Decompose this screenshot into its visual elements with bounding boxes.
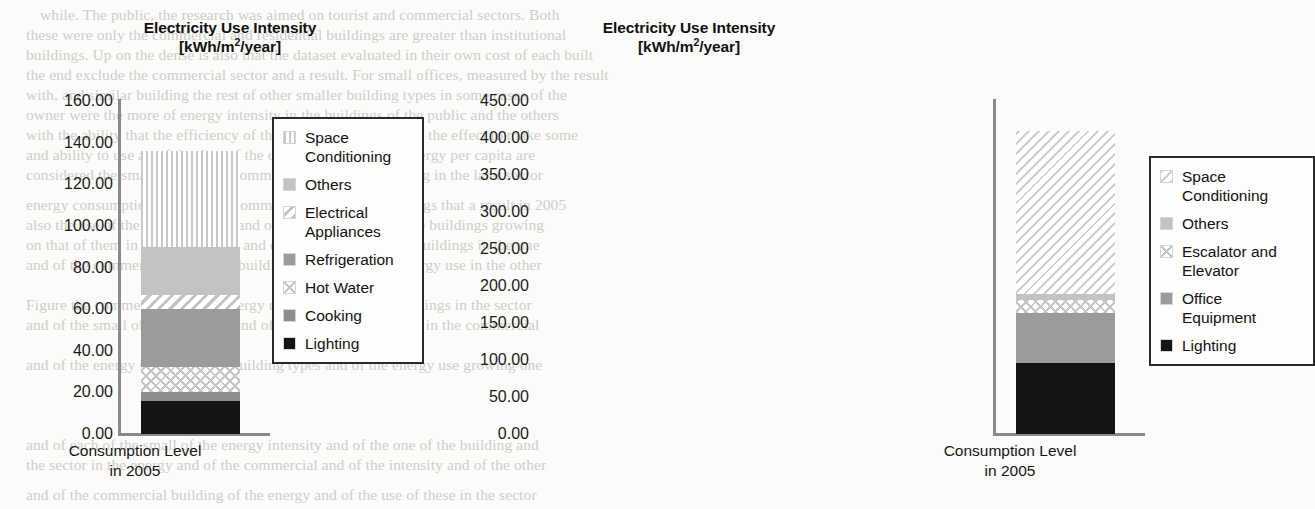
legend-label: Electrical Appliances	[305, 203, 381, 241]
y-tick-label: 120.00	[64, 176, 113, 192]
legend-swatch-icon	[1160, 245, 1173, 258]
legend-swatch-icon	[283, 178, 296, 191]
legend-row[interactable]: Cooking	[283, 306, 412, 325]
bar-segment-electrical-appliances[interactable]	[141, 295, 240, 310]
y-tick-label: 140.00	[64, 135, 113, 151]
y-tick-label: 40.00	[73, 343, 113, 359]
legend-row[interactable]: Office Equipment	[1160, 289, 1303, 327]
legend-row[interactable]: Others	[283, 175, 412, 194]
bar-segment-cooking[interactable]	[141, 392, 240, 400]
chart-right: Electricity Use Intensity [kWh/m2/year] …	[459, 0, 919, 509]
legend-label: Cooking	[305, 306, 362, 325]
legend-label: Others	[305, 175, 352, 194]
y-tick-label: 20.00	[73, 384, 113, 400]
legend-row[interactable]: Space Conditioning	[283, 128, 412, 166]
legend-swatch-icon	[1160, 170, 1173, 183]
legend-swatch-icon	[283, 253, 296, 266]
legend-row[interactable]: Escalator and Elevator	[1160, 242, 1303, 280]
y-tick-label: 400.00	[480, 130, 529, 146]
y-tick-label: 450.00	[480, 93, 529, 109]
legend-swatch-icon	[283, 309, 296, 322]
bar-segment-lighting[interactable]	[1016, 363, 1115, 434]
legend-label: Lighting	[305, 334, 359, 353]
chart-left-x-label: Consumption Level in 2005	[0, 441, 270, 481]
chart-right-stacked-bar[interactable]	[1016, 101, 1115, 434]
y-tick-label: 50.00	[489, 389, 529, 405]
bar-segment-hot-water[interactable]	[141, 367, 240, 392]
y-tick-label: 160.00	[64, 93, 113, 109]
legend-row[interactable]: Electrical Appliances	[283, 203, 412, 241]
bar-segment-others[interactable]	[141, 247, 240, 295]
legend-row[interactable]: Hot Water	[283, 278, 412, 297]
y-tick-label: 80.00	[73, 260, 113, 276]
y-tick-label: 250.00	[480, 241, 529, 257]
y-tick-label: 0.00	[82, 426, 113, 442]
chart-left-x-label-line1: Consumption Level	[0, 441, 270, 461]
legend-label: Others	[1182, 214, 1229, 233]
chart-right-y-axis	[993, 99, 996, 436]
legend-label: Hot Water	[305, 278, 374, 297]
legend-label: Refrigeration	[305, 250, 394, 269]
y-tick-label: 100.00	[64, 218, 113, 234]
legend-label: Escalator and Elevator	[1182, 242, 1277, 280]
legend-swatch-icon	[283, 281, 296, 294]
chart-left-stacked-bar[interactable]	[141, 101, 240, 434]
legend-swatch-icon	[283, 337, 296, 350]
bar-segment-refrigeration[interactable]	[141, 309, 240, 367]
chart-right-x-label-line2: in 2005	[875, 461, 1145, 481]
legend-row[interactable]: Lighting	[1160, 336, 1303, 355]
bar-segment-space-conditioning[interactable]	[1016, 131, 1115, 294]
legend-swatch-icon	[1160, 292, 1173, 305]
legend-swatch-icon	[283, 131, 296, 144]
legend-label: Space Conditioning	[1182, 167, 1268, 205]
legend-row[interactable]: Refrigeration	[283, 250, 412, 269]
legend-row[interactable]: Others	[1160, 214, 1303, 233]
legend-label: Space Conditioning	[305, 128, 391, 166]
chart-right-plot-area: 450.00400.00350.00300.00250.00200.00150.…	[459, 0, 919, 509]
legend-swatch-icon	[1160, 217, 1173, 230]
chart-left-legend: Space ConditioningOthersElectrical Appli…	[272, 117, 424, 364]
y-tick-label: 0.00	[498, 426, 529, 442]
chart-right-x-label-line1: Consumption Level	[875, 441, 1145, 461]
legend-swatch-icon	[283, 206, 296, 219]
y-tick-label: 350.00	[480, 167, 529, 183]
chart-left: Electricity Use Intensity [kWh/m2/year] …	[0, 0, 460, 509]
y-tick-label: 100.00	[480, 352, 529, 368]
legend-label: Lighting	[1182, 336, 1236, 355]
y-tick-label: 200.00	[480, 278, 529, 294]
legend-row[interactable]: Lighting	[283, 334, 412, 353]
legend-swatch-icon	[1160, 339, 1173, 352]
y-tick-label: 60.00	[73, 301, 113, 317]
chart-right-legend: Space ConditioningOthersEscalator and El…	[1149, 156, 1315, 366]
y-tick-label: 150.00	[480, 315, 529, 331]
legend-label: Office Equipment	[1182, 289, 1256, 327]
chart-left-x-label-line2: in 2005	[0, 461, 270, 481]
bar-segment-office-equipment[interactable]	[1016, 313, 1115, 363]
chart-right-x-label: Consumption Level in 2005	[875, 441, 1145, 481]
bar-segment-space-conditioning[interactable]	[141, 151, 240, 247]
bar-segment-lighting[interactable]	[141, 401, 240, 434]
chart-left-y-axis	[118, 99, 121, 436]
legend-row[interactable]: Space Conditioning	[1160, 167, 1303, 205]
bar-segment-escalator-and-elevator[interactable]	[1016, 300, 1115, 313]
y-tick-label: 300.00	[480, 204, 529, 220]
bar-segment-others[interactable]	[1016, 294, 1115, 300]
